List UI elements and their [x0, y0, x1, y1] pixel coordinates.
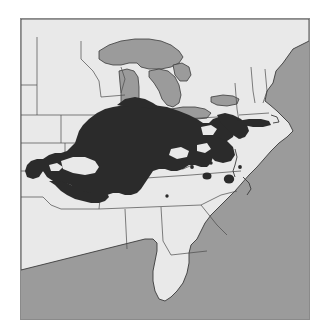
population-dot-5 — [165, 194, 168, 197]
population-dot-1 — [203, 172, 212, 179]
map-page — [0, 0, 324, 333]
population-dot-3 — [190, 165, 194, 169]
population-dot-4 — [238, 165, 242, 169]
population-dot-6 — [209, 161, 212, 164]
population-dot-2 — [224, 174, 234, 183]
distribution-map-frame — [20, 18, 310, 320]
lake-ontario — [211, 95, 239, 106]
distribution-map — [21, 19, 309, 319]
